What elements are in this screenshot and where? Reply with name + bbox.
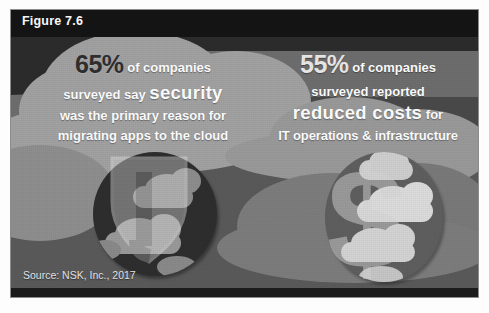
statistic-block-costs: 55% of companies surveyed reported reduc… <box>261 48 475 146</box>
statistic-line: was the primary reason for <box>29 105 257 126</box>
statistic-line: migrating apps to the cloud <box>29 125 257 146</box>
statistic-text: surveyed reported <box>311 84 424 99</box>
statistic-line: 65% of companies <box>29 48 257 81</box>
statistic-block-security: 65% of companies surveyed say security w… <box>29 48 257 146</box>
figure-page: $ 65% of companies surveyed say security… <box>0 0 489 313</box>
statistic-text: surveyed say <box>63 87 149 102</box>
statistic-line: reduced costs for <box>261 101 475 125</box>
statistic-percent: 55% <box>300 50 349 78</box>
svg-text:$: $ <box>327 150 406 288</box>
statistic-text: of companies <box>352 60 436 75</box>
statistic-line: surveyed say security <box>29 81 257 105</box>
statistic-text: IT operations & infrastructure <box>278 128 458 143</box>
shield-icon <box>106 150 192 268</box>
statistic-emphasis: security <box>149 82 222 103</box>
statistic-line: surveyed reported <box>261 81 475 102</box>
dollar-sign-icon: $ <box>323 150 433 288</box>
statistic-emphasis: reduced costs <box>293 102 422 123</box>
source-citation: Source: NSK, Inc., 2017 <box>23 269 136 281</box>
statistic-percent: 65% <box>75 50 124 78</box>
statistic-line: 55% of companies <box>261 48 475 81</box>
figure-header-bar: Figure 7.6 <box>11 10 478 37</box>
figure-label: Figure 7.6 <box>22 14 83 28</box>
figure-footer-bar <box>11 288 478 297</box>
statistic-text: was the primary reason for <box>60 108 226 123</box>
statistic-text: migrating apps to the cloud <box>58 128 228 143</box>
statistic-text: for <box>422 107 443 122</box>
statistic-text: of companies <box>127 60 211 75</box>
statistic-line: IT operations & infrastructure <box>261 125 475 146</box>
figure-panel: $ 65% of companies surveyed say security… <box>11 10 478 297</box>
